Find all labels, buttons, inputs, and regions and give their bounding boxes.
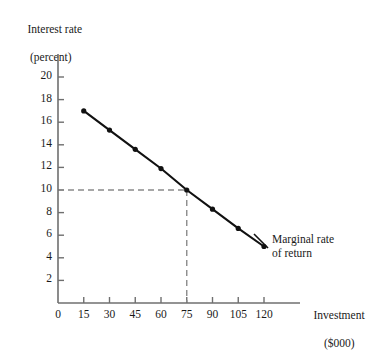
series-marker (210, 207, 215, 212)
y-tick-label: 12 (30, 159, 52, 171)
y-tick-label: 18 (30, 92, 52, 104)
x-tick-label: 90 (202, 308, 224, 320)
x-tick-label: 120 (253, 308, 275, 320)
y-tick-label: 20 (30, 69, 52, 81)
y-tick-label: 2 (30, 272, 52, 284)
y-tick-label: 8 (30, 205, 52, 217)
y-axis-ticks (58, 77, 64, 280)
x-tick-label: 75 (176, 308, 198, 320)
x-tick-label: 30 (99, 308, 121, 320)
series-marker (236, 226, 241, 231)
x-tick-label: 45 (124, 308, 146, 320)
y-tick-label: 4 (30, 250, 52, 262)
series-marker (158, 166, 163, 171)
x-tick-label: 105 (227, 308, 249, 320)
x-tick-label: 15 (73, 308, 95, 320)
equilibrium-guide-lines (58, 190, 187, 303)
series-marker (184, 187, 189, 192)
series-marker (133, 147, 138, 152)
x-tick-label: 0 (47, 308, 69, 320)
x-axis-ticks (84, 297, 264, 303)
series-marker (81, 108, 86, 113)
chart-figure: Interest rate (percent) Investment ($000… (0, 0, 384, 351)
y-tick-label: 10 (30, 182, 52, 194)
y-tick-label: 6 (30, 227, 52, 239)
plot-area (0, 0, 384, 351)
x-tick-label: 60 (150, 308, 172, 320)
y-tick-label: 16 (30, 114, 52, 126)
y-tick-label: 14 (30, 137, 52, 149)
series-marker (107, 128, 112, 133)
